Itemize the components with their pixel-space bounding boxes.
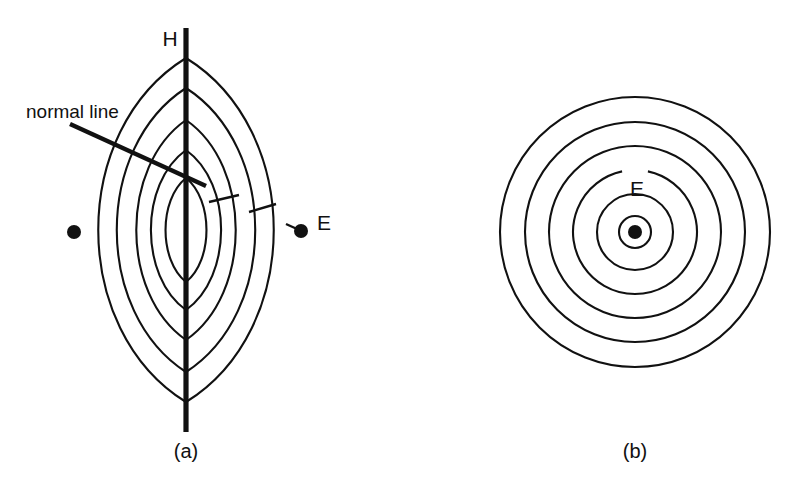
panel-b-center-dot <box>628 225 642 239</box>
panel-a-caption: (a) <box>174 440 198 462</box>
panel-a-right-dot <box>294 224 308 238</box>
diagram-canvas: H normal line E (a) E (b) <box>0 0 801 492</box>
panel-a: H normal line E (a) <box>26 27 331 462</box>
h-axis-label: H <box>162 27 177 50</box>
panel-a-e-label: E <box>317 211 331 234</box>
panel-b: E (b) <box>500 97 770 462</box>
normal-line-label: normal line <box>26 101 119 122</box>
panel-b-caption: (b) <box>623 440 647 462</box>
panel-b-e-label: E <box>630 177 644 200</box>
panel-a-left-dot <box>67 225 81 239</box>
figure-root: H normal line E (a) E (b) <box>0 0 801 492</box>
normal-line-dash-1 <box>209 195 239 202</box>
